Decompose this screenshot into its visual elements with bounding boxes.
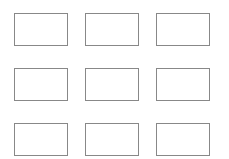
- grid-box-r1-c1: [14, 13, 68, 46]
- grid-box-r1-c3: [156, 13, 210, 46]
- box-grid: [0, 0, 229, 159]
- grid-box-r2-c3: [156, 68, 210, 101]
- grid-box-r2-c1: [14, 68, 68, 101]
- grid-box-r2-c2: [85, 68, 139, 101]
- grid-box-r3-c3: [156, 123, 210, 156]
- grid-box-r3-c2: [85, 123, 139, 156]
- grid-box-r1-c2: [85, 13, 139, 46]
- grid-box-r3-c1: [14, 123, 68, 156]
